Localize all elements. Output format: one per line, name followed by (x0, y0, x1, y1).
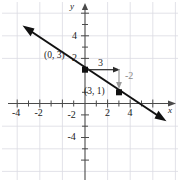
x-tick-label-2: 2 (105, 108, 110, 118)
slope-rise-label: -2 (125, 71, 133, 81)
y-axis-label: y (70, 2, 74, 11)
x-tick-label-neg4: -4 (12, 108, 20, 118)
y-tick-label-neg4: -4 (68, 132, 76, 142)
point-marker-second (116, 89, 122, 95)
slope-run-label: 3 (98, 58, 103, 68)
y-tick-label-4: 4 (72, 31, 77, 41)
y-tick-label-2: 2 (72, 53, 77, 63)
x-tick-label-4: 4 (128, 108, 133, 118)
x-axis-label: x (168, 106, 172, 115)
x-tick-label-neg2: -2 (35, 108, 43, 118)
graph-figure: 4 2 -2 -4 -4 -2 2 4 x y (0, 3) (3, 1) 3 … (0, 0, 180, 182)
point-marker-y-intercept (82, 67, 88, 73)
point-label-y-intercept: (0, 3) (44, 51, 65, 61)
point-label-second: (3, 1) (84, 87, 105, 97)
y-tick-label-neg2: -2 (68, 110, 76, 120)
